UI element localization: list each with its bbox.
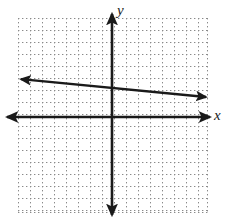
graph-canvas [0, 0, 231, 222]
y-axis-label: y [117, 3, 124, 18]
coordinate-plane-figure: x y [0, 0, 231, 222]
x-axis-label: x [214, 108, 221, 123]
